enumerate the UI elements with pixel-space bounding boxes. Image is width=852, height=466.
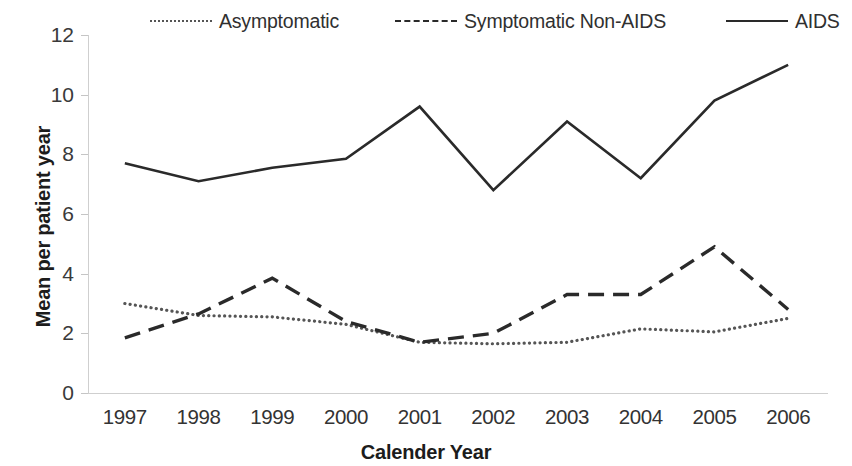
y-axis-title: Mean per patient year <box>32 102 55 352</box>
x-axis-tick-label: 1999 <box>233 405 311 429</box>
chart-legend: Asymptomatic Symptomatic Non-AIDS AIDS <box>150 6 840 36</box>
x-axis-tick-label: 2000 <box>307 405 385 429</box>
x-axis-tick-label: 1997 <box>86 405 164 429</box>
legend-swatch-dotted-icon <box>150 14 212 28</box>
legend-item-symptomatic-non-aids: Symptomatic Non-AIDS <box>395 10 666 33</box>
x-axis-tick-label: 2003 <box>528 405 606 429</box>
y-axis-tick <box>81 214 88 215</box>
y-axis-tick <box>81 95 88 96</box>
legend-item-aids: AIDS <box>726 10 840 33</box>
x-axis-tick-label: 1998 <box>160 405 238 429</box>
x-axis-tick-label: 2005 <box>675 405 753 429</box>
series-line-aids <box>125 65 788 190</box>
legend-label-asymptomatic: Asymptomatic <box>219 10 339 33</box>
y-axis-tick <box>81 393 88 394</box>
plot-area <box>88 35 825 393</box>
series-line-symptomatic-non-aids <box>125 247 788 342</box>
x-axis-tick-label: 2001 <box>381 405 459 429</box>
y-axis-tick-label: 12 <box>34 24 74 45</box>
legend-item-asymptomatic: Asymptomatic <box>150 10 339 33</box>
y-axis-tick <box>81 333 88 334</box>
y-axis-tick <box>81 154 88 155</box>
line-chart-figure: Asymptomatic Symptomatic Non-AIDS AIDS 0… <box>0 0 852 466</box>
legend-swatch-dashed-icon <box>395 14 457 28</box>
y-axis-tick-label: 0 <box>34 382 74 403</box>
x-axis-tick-label: 2006 <box>749 405 827 429</box>
legend-label-symptomatic-non-aids: Symptomatic Non-AIDS <box>464 10 666 33</box>
y-axis-tick <box>81 35 88 36</box>
x-axis-tick-label: 2002 <box>454 405 532 429</box>
x-axis-tick-label: 2004 <box>602 405 680 429</box>
legend-swatch-solid-icon <box>726 14 788 28</box>
y-axis-tick <box>81 274 88 275</box>
series-canvas <box>88 35 825 393</box>
x-axis-title: Calender Year <box>0 441 852 464</box>
legend-label-aids: AIDS <box>795 10 840 33</box>
x-axis-line <box>88 393 828 394</box>
